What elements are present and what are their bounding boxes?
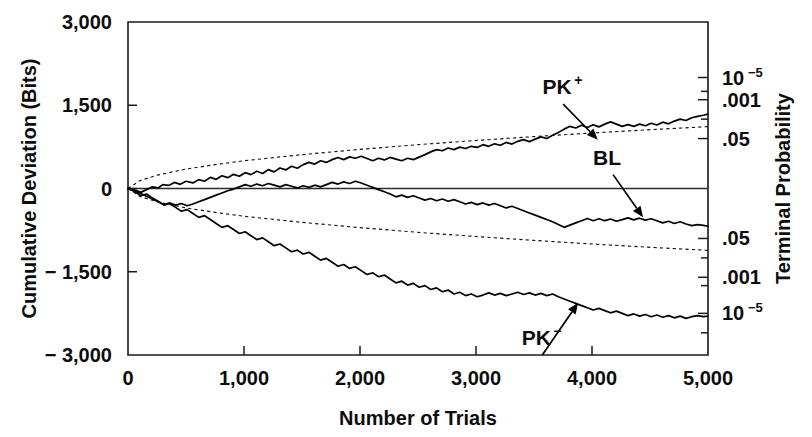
y2-tick-label-5: 10 (722, 302, 744, 324)
x-tick-label-2: 2,000 (335, 367, 385, 389)
x-tick-label-4: 4,000 (567, 367, 617, 389)
x-axis-title: Number of Trials (339, 407, 497, 429)
chart-figure: 3,0001,5000− 1,500− 3,00010−5.001.05.05.… (0, 0, 812, 437)
series-label-sup-pk: − (553, 323, 561, 339)
y2-axis-title: Terminal Probability (772, 92, 794, 284)
series-label-sup-pk: + (574, 72, 582, 88)
x-tick-label-1: 1,000 (219, 367, 269, 389)
y2-tick-label-0: 10 (722, 67, 744, 89)
x-tick-label-5: 5,000 (683, 367, 733, 389)
y2-tick-exponent-5: −5 (748, 300, 763, 315)
y2-tick-label-4: .001 (722, 266, 761, 288)
x-tick-label-0: 0 (122, 367, 133, 389)
series-label-pk: PK (522, 326, 551, 349)
y-axis-title: Cumulative Deviation (Bits) (18, 58, 40, 318)
y-tick-label-4: − 3,000 (45, 344, 112, 366)
y2-tick-label-3: .05 (722, 227, 750, 249)
series-label-bl: BL (593, 146, 621, 169)
x-tick-label-3: 3,000 (451, 367, 501, 389)
cumulative-deviation-chart: 3,0001,5000− 1,500− 3,00010−5.001.05.05.… (0, 0, 812, 437)
y-tick-label-1: 1,500 (62, 94, 112, 116)
y2-tick-label-1: .001 (722, 89, 761, 111)
y-tick-label-3: − 1,500 (45, 261, 112, 283)
series-label-pk: PK (543, 75, 572, 98)
y2-tick-label-2: .05 (722, 128, 750, 150)
y2-tick-exponent-0: −5 (748, 65, 763, 80)
y-tick-label-0: 3,000 (62, 11, 112, 33)
y-tick-label-2: 0 (101, 178, 112, 200)
